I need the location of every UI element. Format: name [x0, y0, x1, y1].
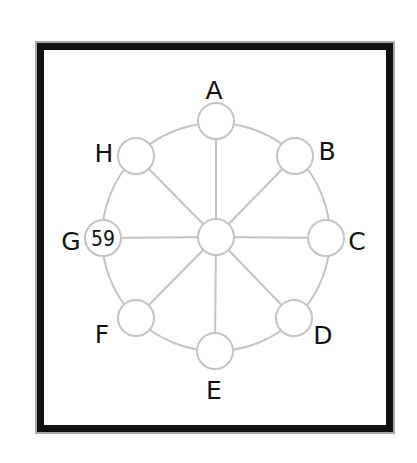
node-label-b: B — [318, 137, 335, 166]
node-label-c: C — [348, 227, 365, 256]
node-label-f: F — [95, 320, 109, 349]
node-value: 59 — [91, 227, 115, 251]
node-a[interactable] — [198, 103, 234, 139]
node-label-g: G — [61, 227, 80, 256]
node-label-a: A — [205, 76, 222, 105]
node-b[interactable] — [277, 138, 313, 174]
node-center[interactable] — [198, 219, 234, 255]
node-label-d: D — [313, 321, 332, 350]
node-label-h: H — [95, 139, 114, 168]
node-f[interactable] — [118, 300, 154, 336]
node-label-e: E — [206, 376, 222, 405]
node-d[interactable] — [276, 300, 312, 336]
node-h[interactable] — [118, 138, 154, 174]
wheel-diagram: 59 ABCDEFGH — [0, 0, 417, 463]
node-e[interactable] — [197, 333, 233, 369]
node-g[interactable]: 59 — [85, 220, 121, 256]
node-c[interactable] — [308, 220, 344, 256]
